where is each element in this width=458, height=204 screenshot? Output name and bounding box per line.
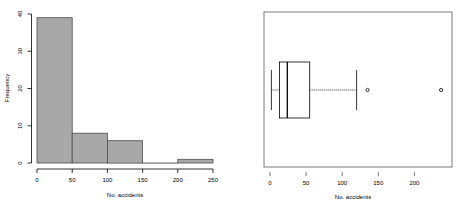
boxplot-panel: 0 50 100 150 200 No. accidents: [229, 0, 458, 204]
boxplot-xtick-3: 150: [373, 180, 384, 186]
boxplot-xtick-1: 50: [303, 180, 310, 186]
histogram-ytick-2: 20: [17, 85, 23, 92]
histogram-x-axis: [37, 169, 213, 173]
boxplot-box: [279, 62, 309, 118]
boxplot-x-axis-title: No. accidents: [335, 194, 371, 200]
histogram-xtick-5: 250: [208, 177, 219, 183]
histogram-x-axis-title: No. accidents: [107, 192, 143, 198]
histogram-xtick-3: 150: [138, 177, 149, 183]
histogram-y-tick-labels: 0 10 20 30 40: [17, 10, 23, 165]
histogram-ytick-3: 30: [17, 47, 23, 54]
histogram-svg: 0 10 20 30 40 0 50 100 150 200 250 No. a…: [0, 0, 229, 204]
boxplot-svg: 0 50 100 150 200 No. accidents: [229, 0, 458, 204]
boxplot-outliers: [366, 88, 443, 91]
histogram-panel: 0 10 20 30 40 0 50 100 150 200 250 No. a…: [0, 0, 229, 204]
histogram-bar-2: [107, 141, 142, 163]
histogram-bars: [37, 18, 213, 163]
boxplot-x-axis: [270, 172, 414, 176]
boxplot-xtick-0: 0: [268, 180, 272, 186]
histogram-bar-4: [178, 159, 213, 163]
boxplot-outlier-point: [440, 88, 443, 91]
histogram-xtick-0: 0: [35, 177, 39, 183]
boxplot-x-tick-labels: 0 50 100 150 200: [268, 180, 420, 186]
boxplot-xtick-4: 200: [409, 180, 420, 186]
histogram-xtick-2: 100: [102, 177, 113, 183]
histogram-y-axis-title: Frequency: [4, 74, 10, 102]
boxplot-glyph: [271, 62, 356, 118]
histogram-y-axis: [28, 14, 32, 163]
boxplot-frame: [264, 12, 452, 167]
histogram-ytick-4: 40: [17, 10, 23, 17]
histogram-xtick-4: 200: [173, 177, 184, 183]
figure-container: 0 10 20 30 40 0 50 100 150 200 250 No. a…: [0, 0, 458, 204]
histogram-ytick-0: 0: [17, 161, 23, 165]
boxplot-xtick-2: 100: [337, 180, 348, 186]
histogram-bar-1: [72, 133, 107, 163]
histogram-bar-0: [37, 18, 72, 163]
boxplot-outlier-point: [366, 88, 369, 91]
histogram-xtick-1: 50: [69, 177, 76, 183]
histogram-ytick-1: 10: [17, 122, 23, 129]
histogram-x-tick-labels: 0 50 100 150 200 250: [35, 177, 218, 183]
